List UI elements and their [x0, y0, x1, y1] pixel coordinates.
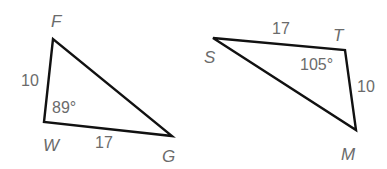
angle-label-w: 89° — [52, 99, 76, 116]
vertex-label-m: M — [341, 145, 356, 164]
side-label-wg: 17 — [95, 134, 113, 151]
triangle-fwg: F 10 89° W 17 G — [21, 12, 175, 166]
vertex-label-g: G — [162, 147, 175, 166]
angle-label-t: 105° — [300, 56, 333, 73]
side-label-fw: 10 — [21, 72, 39, 89]
vertex-label-s: S — [204, 48, 216, 67]
vertex-label-f: F — [51, 12, 63, 31]
side-label-st: 17 — [272, 20, 290, 37]
side-label-tm: 10 — [357, 78, 375, 95]
vertex-label-w: W — [43, 136, 61, 155]
triangle-stm: 17 T S 105° 10 M — [204, 20, 375, 164]
vertex-label-t: T — [333, 26, 345, 45]
triangles-diagram: F 10 89° W 17 G 17 T S 105° 10 M — [0, 0, 387, 169]
